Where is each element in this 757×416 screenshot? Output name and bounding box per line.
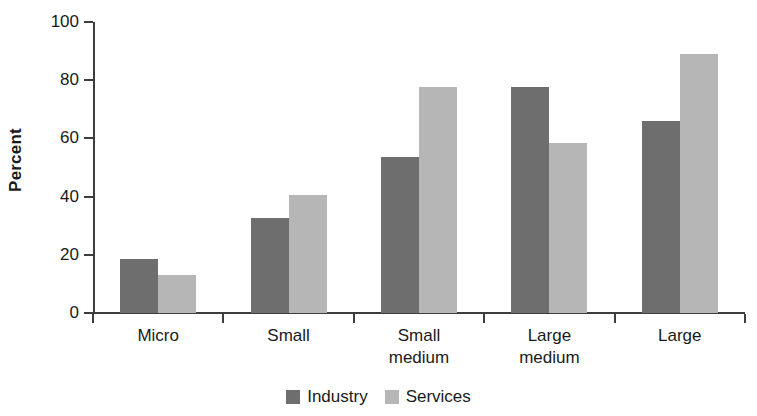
legend-label-services: Services — [406, 388, 471, 405]
x-tick — [614, 314, 616, 323]
bars-layer — [0, 0, 757, 313]
bar-services-small — [289, 195, 327, 313]
legend-label-industry: Industry — [307, 388, 367, 405]
bar-industry-large-medium — [511, 87, 549, 313]
bar-industry-small — [251, 218, 289, 313]
x-label-small: Small — [223, 325, 353, 347]
x-label-micro: Micro — [93, 325, 223, 347]
bar-industry-small-medium — [381, 157, 419, 313]
x-tick — [483, 314, 485, 323]
x-tick — [92, 314, 94, 323]
x-label-small-medium: Smallmedium — [354, 325, 484, 369]
legend-swatch-industry — [286, 390, 300, 404]
chart-legend: IndustryServices — [0, 388, 757, 405]
x-label-line2: medium — [354, 347, 484, 369]
x-label-line1: Large — [658, 326, 701, 345]
x-label-line1: Small — [267, 326, 310, 345]
x-label-line1: Micro — [137, 326, 179, 345]
x-label-line2: medium — [484, 347, 614, 369]
x-label-line1: Small — [398, 326, 441, 345]
bar-chart-figure: Percent 020406080100 MicroSmallSmallmedi… — [0, 0, 757, 416]
bar-services-small-medium — [419, 87, 457, 313]
bar-services-large — [680, 54, 718, 313]
bar-industry-micro — [120, 259, 158, 313]
legend-item-industry: Industry — [286, 388, 367, 405]
legend-item-services: Services — [385, 388, 471, 405]
x-label-line1: Large — [528, 326, 571, 345]
bar-services-large-medium — [549, 143, 587, 313]
legend-swatch-services — [385, 390, 399, 404]
x-tick — [222, 314, 224, 323]
bar-industry-large — [642, 121, 680, 313]
bar-services-micro — [158, 275, 196, 313]
x-label-large-medium: Largemedium — [484, 325, 614, 369]
x-tick — [744, 314, 746, 323]
x-tick — [353, 314, 355, 323]
x-label-large: Large — [615, 325, 745, 347]
